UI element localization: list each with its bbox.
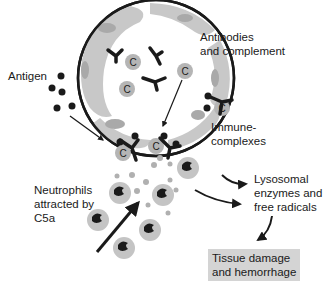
complement-label: C <box>129 57 136 68</box>
svg-text:C: C <box>181 66 188 77</box>
neutrophils-label: Neutrophilsattracted byC5a <box>34 183 94 225</box>
antigen-dots <box>49 73 76 112</box>
lysosomal-label: Lysosomalenzymes andfree radicals <box>254 172 322 214</box>
svg-text:C: C <box>123 84 130 95</box>
antigen-label: Antigen <box>8 69 47 83</box>
svg-text:C: C <box>119 148 126 159</box>
svg-text:C: C <box>152 141 159 152</box>
immune-complexes-label: Immune-complexes <box>211 120 266 148</box>
antibodies-label: Antibodiesand complement <box>200 30 285 58</box>
tissue-damage-box: Tissue damageand hemorrhage <box>208 249 300 281</box>
